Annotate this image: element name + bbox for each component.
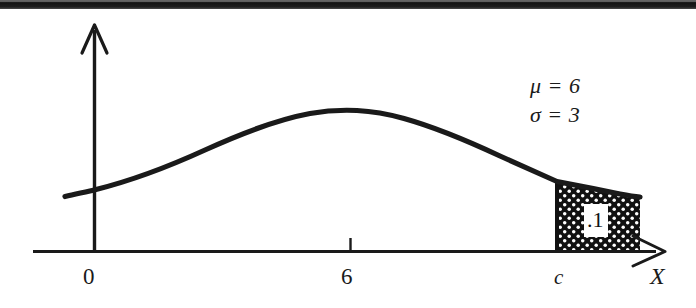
parameter-mu: μ = 6	[530, 75, 580, 97]
x-tick-label-c: c	[554, 267, 563, 288]
parameter-sigma: σ = 3	[530, 104, 580, 126]
shaded-area-label: .1	[584, 204, 608, 237]
normal-distribution-figure: 0 6 c X μ = 6 σ = 3 .1	[0, 0, 696, 308]
plot-canvas	[0, 0, 696, 308]
x-tick-label-6: 6	[341, 265, 353, 288]
x-axis-label: X	[650, 264, 665, 288]
x-tick-label-0: 0	[83, 265, 95, 288]
